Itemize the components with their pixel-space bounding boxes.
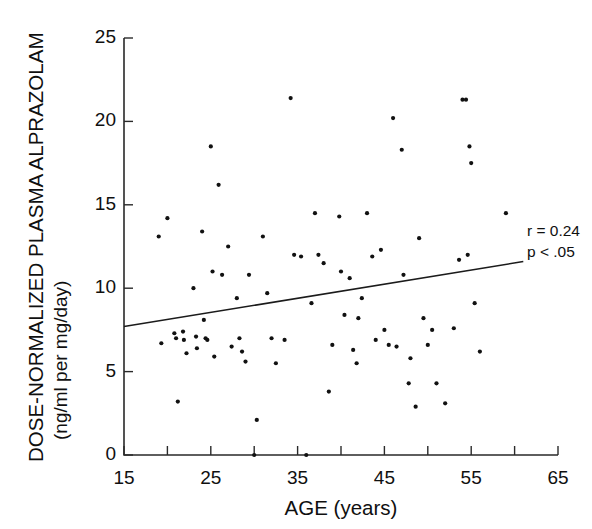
data-point [292,253,296,257]
x-axis-label: AGE (years) [124,496,558,520]
data-point [394,344,398,348]
annotation-correlation: r = 0.24 [527,222,580,240]
data-point [202,318,206,322]
data-point [316,253,320,257]
data-point [356,316,360,320]
data-point [274,361,278,365]
data-point [348,276,352,280]
data-point [327,390,331,394]
data-point [165,216,169,220]
data-point [230,344,234,348]
data-point [330,343,334,347]
data-point [464,98,468,102]
data-point [200,229,204,233]
data-point [370,254,374,258]
data-point [194,334,198,338]
data-point [172,331,176,335]
data-point [157,234,161,238]
data-point [243,359,247,363]
data-point [159,341,163,345]
annotation-pvalue: p < .05 [527,243,575,261]
data-point [304,453,308,457]
data-point [414,405,418,409]
data-point [457,258,461,262]
data-point [365,211,369,215]
data-point [417,236,421,240]
data-point [220,273,224,277]
data-point [209,144,213,148]
data-point [282,338,286,342]
data-points-group [157,96,508,457]
data-point [255,418,259,422]
data-point [289,96,293,100]
data-point [400,148,404,152]
data-point [269,336,273,340]
data-point [478,349,482,353]
data-point [313,211,317,215]
data-point [247,273,251,277]
data-point [252,453,256,457]
data-point [421,316,425,320]
data-point [466,253,470,257]
data-point [205,338,209,342]
axes-group [124,38,558,455]
data-point [408,356,412,360]
data-point [351,348,355,352]
data-point [379,248,383,252]
data-point [174,336,178,340]
data-point [217,183,221,187]
data-point [374,338,378,342]
data-point [452,326,456,330]
data-point [355,361,359,365]
data-point [226,244,230,248]
data-point [237,336,241,340]
data-point [240,349,244,353]
data-point [401,273,405,277]
axis-ticks-group [124,38,558,455]
data-point [473,301,477,305]
data-point [212,354,216,358]
data-point [434,381,438,385]
scatter-plot-figure: DOSE-NORMALIZED PLASMA ALPRAZOLAM (ng/ml… [0,0,592,529]
data-point [235,296,239,300]
data-point [443,401,447,405]
data-point [342,313,346,317]
data-point [391,116,395,120]
data-point [299,254,303,258]
data-point [265,291,269,295]
regression-line [124,262,523,327]
axis-spines [124,38,558,455]
data-point [176,400,180,404]
data-point [469,161,473,165]
data-point [337,214,341,218]
data-point [360,296,364,300]
data-point [195,346,199,350]
data-point [504,211,508,215]
data-point [191,286,195,290]
data-point [184,351,188,355]
data-point [339,269,343,273]
data-point [426,343,430,347]
data-point [261,234,265,238]
data-point [382,328,386,332]
data-point [182,338,186,342]
data-point [387,343,391,347]
data-point [210,269,214,273]
plot-canvas [0,0,592,529]
data-point [309,301,313,305]
data-point [407,381,411,385]
data-point [467,144,471,148]
data-point [430,328,434,332]
data-point [181,329,185,333]
data-point [322,261,326,265]
